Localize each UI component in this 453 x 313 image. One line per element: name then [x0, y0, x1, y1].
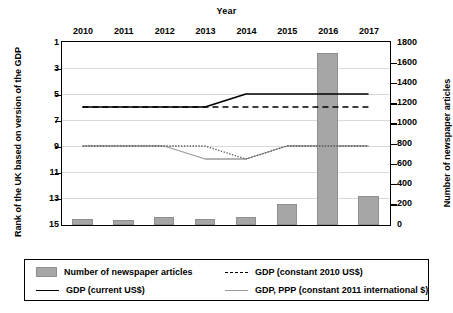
- y-axis-right-tick-mark: [391, 144, 397, 145]
- x-axis-tick-label: 2017: [349, 26, 389, 36]
- y-axis-right-tick-label: 800: [397, 138, 441, 148]
- solid-line-icon: [36, 290, 59, 291]
- legend-item-gdp-constant-2010: GDP (constant 2010 US$): [225, 267, 363, 277]
- y-axis-left-tick-label: 11: [19, 167, 59, 177]
- legend-label: GDP, PPP (constant 2011 international $): [255, 285, 428, 295]
- y-axis-right-tick-label: 1000: [397, 117, 441, 127]
- chart-figure: Year Rank of the UK based on version of …: [0, 0, 453, 313]
- y-axis-left-tick-label: 7: [19, 115, 59, 125]
- y-axis-right-tick-label: 1400: [397, 77, 441, 87]
- x-axis-tick-label: 2012: [145, 26, 185, 36]
- y-axis-right-tick-label: 1600: [397, 57, 441, 67]
- line-gdp-constant-2010-path: [82, 146, 368, 159]
- x-axis-tick-label: 2014: [226, 26, 266, 36]
- solid-gray-line-icon: [225, 290, 248, 291]
- x-axis-tick-label: 2010: [63, 26, 103, 36]
- y-axis-right-tick-mark: [391, 103, 397, 104]
- y-axis-left-tick-label: 15: [19, 219, 59, 229]
- y-axis-left-tick-label: 13: [19, 193, 59, 203]
- bar-swatch-icon: [36, 267, 57, 277]
- x-axis-tick-label: 2015: [267, 26, 307, 36]
- legend-item-newspaper-articles: Number of newspaper articles: [36, 267, 193, 277]
- y-axis-left-tick-label: 1: [19, 37, 59, 47]
- line-series-layer: [62, 42, 389, 224]
- y-axis-right-tick-label: 1800: [397, 37, 441, 47]
- legend-label: GDP (constant 2010 US$): [255, 267, 363, 277]
- line-gdp-current: [82, 94, 368, 107]
- dashed-line-icon: [225, 272, 248, 273]
- x-axis-tick-label: 2016: [308, 26, 348, 36]
- y-axis-right-title: Number of newspaper articles: [442, 38, 452, 248]
- y-axis-right-tick-mark: [391, 83, 397, 84]
- x-axis-title: Year: [0, 6, 453, 16]
- legend-item-gdp-current: GDP (current US$): [36, 285, 145, 295]
- x-axis-tick-label: 2013: [186, 26, 226, 36]
- plot-area: [61, 41, 391, 226]
- y-axis-right-tick-label: 600: [397, 158, 441, 168]
- x-axis-tick-label: 2011: [104, 26, 144, 36]
- y-axis-right-tick-mark: [391, 184, 397, 185]
- y-axis-right-tick-label: 1200: [397, 97, 441, 107]
- chart-legend: Number of newspaper articles GDP (consta…: [24, 259, 429, 301]
- y-axis-left-tick-label: 9: [19, 141, 59, 151]
- y-axis-right-tick-mark: [391, 204, 397, 205]
- legend-label: Number of newspaper articles: [64, 267, 193, 277]
- y-axis-left-tick-label: 3: [19, 63, 59, 73]
- legend-item-gdp-ppp: GDP, PPP (constant 2011 international $): [225, 285, 428, 295]
- y-axis-right-tick-label: 200: [397, 198, 441, 208]
- y-axis-right-tick-mark: [391, 164, 397, 165]
- y-axis-left-tick-label: 5: [19, 89, 59, 99]
- line-gdp-ppp: [82, 146, 368, 159]
- y-axis-right-tick-mark: [391, 63, 397, 64]
- legend-label: GDP (current US$): [66, 285, 145, 295]
- y-axis-right-tick-label: 0: [397, 219, 441, 229]
- y-axis-right-tick-label: 400: [397, 178, 441, 188]
- y-axis-right-tick-mark: [391, 123, 397, 124]
